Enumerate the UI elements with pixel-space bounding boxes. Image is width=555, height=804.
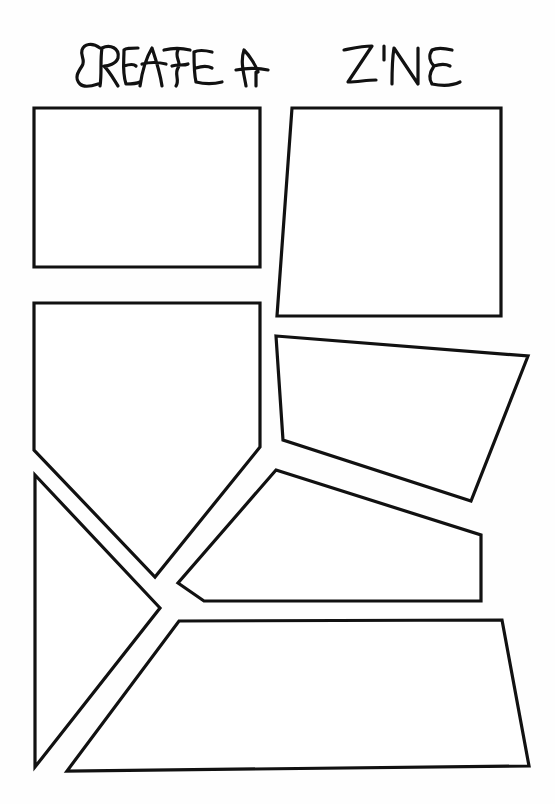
panel-layout: [0, 0, 555, 804]
comic-panel-4[interactable]: [276, 336, 528, 501]
comic-panel-1[interactable]: [34, 108, 260, 267]
comic-panel-7[interactable]: [67, 620, 529, 771]
comic-panel-2[interactable]: [277, 108, 501, 316]
zine-template-page: CREATE A ZINE: [0, 0, 555, 804]
